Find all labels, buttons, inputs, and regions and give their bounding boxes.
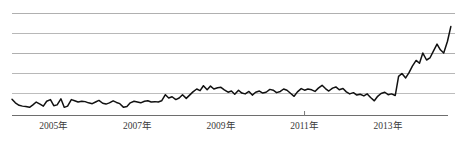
chart-plot-area: [0, 0, 461, 142]
gridlines-group: [12, 14, 455, 94]
line-chart: 2005年2007年2009年2011年2013年: [0, 0, 461, 142]
data-series-line: [12, 27, 451, 108]
